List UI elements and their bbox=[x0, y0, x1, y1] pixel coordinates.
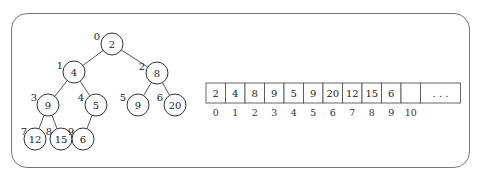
array-cell: 20 bbox=[206, 83, 226, 118]
tree-edge bbox=[55, 81, 67, 97]
tree-edge bbox=[87, 115, 92, 128]
array-cell: 82 bbox=[245, 83, 265, 118]
tree-node: 54 bbox=[78, 92, 107, 116]
array-index-label: 9 bbox=[388, 107, 394, 118]
tree-node: 20 bbox=[94, 31, 123, 55]
node-index-label: 4 bbox=[78, 92, 84, 103]
tree-node: 82 bbox=[139, 61, 168, 84]
node-value: 6 bbox=[80, 134, 86, 145]
array-index-label: 8 bbox=[369, 107, 375, 118]
node-value: 5 bbox=[93, 100, 99, 111]
array-cell: . . . bbox=[421, 83, 461, 103]
array-cell-value: 2 bbox=[213, 88, 219, 99]
node-index-label: 3 bbox=[31, 92, 37, 103]
array-index-label: 10 bbox=[405, 107, 417, 118]
array-cell: 10 bbox=[401, 83, 421, 118]
array-cell-value: . . . bbox=[433, 88, 449, 99]
array-index-label: 1 bbox=[232, 107, 238, 118]
tree-nodes: 20418293549520612715869 bbox=[21, 31, 186, 150]
node-index-label: 1 bbox=[57, 60, 63, 71]
array-index-label: 6 bbox=[330, 107, 336, 118]
array-cell: 127 bbox=[343, 83, 363, 118]
tree-node: 41 bbox=[57, 60, 85, 83]
node-index-label: 6 bbox=[157, 92, 163, 103]
tree-edge bbox=[39, 115, 44, 128]
array-index-label: 0 bbox=[213, 107, 219, 118]
node-index-label: 5 bbox=[120, 92, 126, 103]
array-cell: 41 bbox=[226, 83, 246, 118]
node-value: 4 bbox=[71, 67, 77, 78]
node-value: 15 bbox=[55, 134, 68, 145]
array-cell: 69 bbox=[382, 83, 402, 118]
array-cell-value: 6 bbox=[388, 88, 394, 99]
tree-node: 95 bbox=[120, 92, 149, 116]
array-cell-value: 4 bbox=[232, 88, 238, 99]
heap-diagram: 20418293549520612715869 2041829354952061… bbox=[0, 0, 480, 179]
array-cell-value: 15 bbox=[365, 88, 378, 99]
array-cell: 158 bbox=[362, 83, 382, 118]
node-index-label: 0 bbox=[94, 31, 100, 42]
node-value: 9 bbox=[135, 100, 141, 111]
node-value: 8 bbox=[154, 68, 160, 79]
array-index-label: 2 bbox=[252, 107, 258, 118]
array-cell-value: 5 bbox=[291, 88, 297, 99]
tree-node: 127 bbox=[21, 126, 46, 150]
tree-node: 93 bbox=[31, 92, 59, 116]
heap-array: 2041829354952061271586910. . . bbox=[206, 83, 461, 118]
tree-node: 69 bbox=[68, 126, 94, 150]
array-cell: 95 bbox=[304, 83, 324, 118]
array-cell: 206 bbox=[323, 83, 343, 118]
tree-edge bbox=[144, 82, 152, 95]
array-cell-value: 12 bbox=[346, 88, 359, 99]
array-index-label: 7 bbox=[349, 107, 355, 118]
node-index-label: 7 bbox=[21, 126, 27, 137]
array-cell-value: 9 bbox=[271, 88, 277, 99]
array-index-label: 4 bbox=[291, 107, 297, 118]
array-cell: 54 bbox=[284, 83, 304, 118]
array-cell-value: 20 bbox=[326, 88, 339, 99]
array-index-label: 3 bbox=[271, 107, 277, 118]
node-index-label: 2 bbox=[139, 61, 145, 72]
tree-edge bbox=[162, 83, 169, 96]
array-cell-value: 8 bbox=[252, 88, 258, 99]
array-index-label: 5 bbox=[310, 107, 316, 118]
node-value: 9 bbox=[45, 100, 51, 111]
node-index-label: 8 bbox=[46, 126, 52, 137]
array-cell-value: 9 bbox=[310, 88, 316, 99]
array-cell: 93 bbox=[265, 83, 285, 118]
node-index-label: 9 bbox=[68, 126, 74, 137]
tree-edge bbox=[52, 115, 57, 128]
node-value: 2 bbox=[109, 39, 115, 50]
tree-node: 206 bbox=[157, 92, 186, 116]
node-value: 20 bbox=[169, 100, 182, 111]
node-value: 12 bbox=[29, 134, 42, 145]
tree-edge bbox=[83, 51, 103, 66]
